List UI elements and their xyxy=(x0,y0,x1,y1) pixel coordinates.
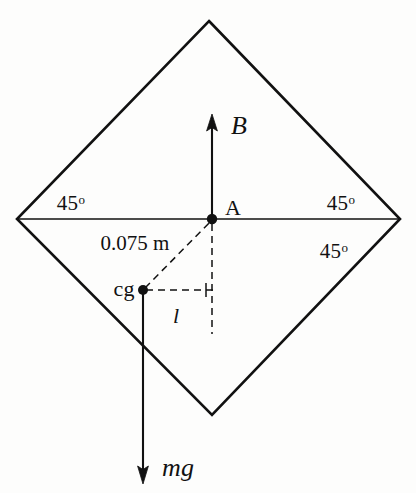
point-cg-label: cg xyxy=(114,278,135,300)
distance-to-cg-label: 0.075 m xyxy=(101,233,170,254)
point-a-label: A xyxy=(225,197,241,219)
angle-label-top-right: 45o xyxy=(327,193,356,214)
diagram-canvas xyxy=(0,0,416,493)
lever-arm-label: l xyxy=(173,305,179,327)
angle-label-bottom-right: 45o xyxy=(320,241,349,262)
weight-force-label: mg xyxy=(162,455,194,481)
free-body-diagram: 45o 45o 45o A cg B mg 0.075 m l xyxy=(0,0,416,493)
point-a-marker xyxy=(207,214,217,224)
buoyancy-force-label: B xyxy=(231,113,247,139)
angle-label-top-left: 45o xyxy=(57,193,86,214)
point-cg-marker xyxy=(138,285,148,295)
